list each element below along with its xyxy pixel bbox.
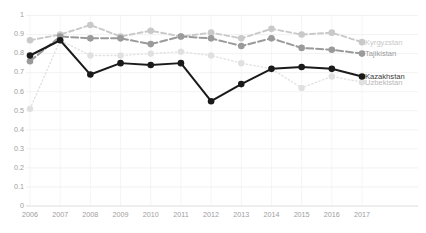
- data-point: [329, 46, 336, 53]
- series-layer: [27, 22, 366, 112]
- data-point: [208, 52, 214, 58]
- data-point: [178, 48, 184, 54]
- data-point: [268, 26, 275, 33]
- data-point: [298, 31, 305, 38]
- data-point: [268, 35, 275, 42]
- data-point: [147, 62, 154, 69]
- data-point: [329, 66, 336, 73]
- data-point: [329, 29, 336, 36]
- series-kyrgyzstan: [27, 22, 366, 46]
- data-point: [208, 29, 215, 36]
- data-point: [27, 37, 34, 44]
- data-point: [238, 60, 244, 66]
- data-point: [117, 35, 124, 42]
- series-label-uzbekistan: Uzbekistan: [365, 78, 403, 87]
- data-point: [87, 22, 94, 29]
- data-point: [178, 33, 185, 40]
- data-point: [238, 43, 245, 50]
- data-point: [268, 66, 275, 73]
- data-point: [147, 27, 154, 34]
- data-point: [208, 98, 215, 105]
- data-point: [87, 35, 94, 42]
- series-line: [30, 40, 362, 109]
- series-kazakhstan: [27, 37, 366, 105]
- data-point: [147, 41, 154, 48]
- series-label-kyrgyzstan: Kyrgyzstan: [365, 38, 403, 47]
- data-point: [117, 52, 123, 58]
- data-point: [148, 50, 154, 56]
- series-line: [30, 36, 362, 61]
- data-point: [27, 58, 34, 65]
- plot-area: [0, 0, 426, 233]
- data-point: [87, 71, 94, 78]
- data-point: [298, 64, 305, 71]
- data-point: [238, 81, 245, 88]
- data-point: [27, 52, 34, 59]
- data-point: [87, 52, 93, 58]
- series-line: [30, 25, 362, 42]
- data-point: [298, 45, 305, 52]
- data-point: [329, 73, 335, 79]
- line-chart: 10.90.80.70.60.50.40.30.20.10 2006200720…: [0, 0, 426, 233]
- series-uzbekistan: [27, 37, 365, 112]
- data-point: [57, 37, 64, 44]
- data-point: [178, 60, 185, 67]
- data-point: [117, 60, 124, 67]
- data-point: [208, 35, 215, 42]
- series-label-tajikistan: Tajikistan: [365, 49, 396, 58]
- data-point: [27, 106, 33, 112]
- data-point: [298, 85, 304, 91]
- data-point: [238, 35, 245, 42]
